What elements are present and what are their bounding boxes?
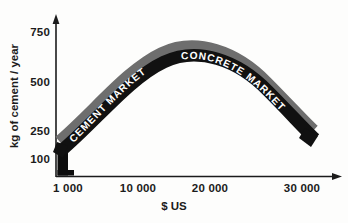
y-axis-arrowhead [53, 14, 60, 24]
x-tick-label-30000: 30 000 [276, 182, 328, 194]
x-tick-label-20000: 20 000 [184, 182, 236, 194]
x-axis-title: $ US [0, 200, 348, 212]
x-tick-label-10000: 10 000 [112, 182, 164, 194]
x-tick-label-1000: 1 000 [46, 182, 90, 194]
axes [53, 14, 342, 180]
x-axis-arrowhead [332, 173, 342, 180]
cement-market-band-label: CEMENT MARKET [67, 66, 148, 145]
cement-market-chart: CEMENT MARKET CONCRETE MARKET 750 500 25… [0, 0, 348, 223]
y-axis-title: kg of cement / year [8, 36, 20, 156]
cement-market-band-label-text: CEMENT MARKET [67, 66, 148, 145]
